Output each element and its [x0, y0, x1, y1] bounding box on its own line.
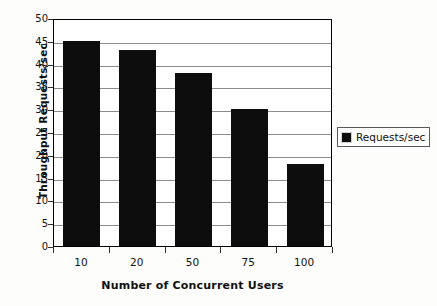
y-tick-label: 25	[8, 128, 48, 138]
y-tick-label: 5	[8, 219, 48, 229]
bar	[231, 109, 268, 246]
x-axis-title: Number of Concurrent Users	[53, 279, 332, 292]
y-tick-label: 50	[8, 14, 48, 24]
y-tick-label: 20	[8, 151, 48, 161]
x-tick-mark	[220, 247, 221, 253]
x-tick-label: 100	[274, 256, 334, 268]
x-tick-mark	[332, 247, 333, 253]
x-tick-mark	[109, 247, 110, 253]
legend-item-label: Requests/sec	[356, 132, 425, 143]
legend: Requests/sec	[337, 127, 430, 147]
x-tick-label: 20	[107, 256, 167, 268]
x-tick-mark	[53, 247, 54, 253]
plot-area	[53, 19, 332, 247]
y-tick-label: 10	[8, 196, 48, 206]
bar	[175, 73, 212, 246]
x-tick-mark	[165, 247, 166, 253]
x-tick-label: 75	[218, 256, 278, 268]
y-tick-label: 15	[8, 174, 48, 184]
y-tick-label: 30	[8, 105, 48, 115]
x-tick-label: 50	[163, 256, 223, 268]
bar-chart: Throughput Requests/sec 5045403530252015…	[0, 0, 437, 306]
bar	[63, 41, 100, 246]
y-tick-label: 0	[8, 242, 48, 252]
filled-square-icon	[341, 132, 352, 143]
y-tick-label: 45	[8, 37, 48, 47]
x-tick-label: 10	[51, 256, 111, 268]
bar	[119, 50, 156, 246]
x-tick-mark	[276, 247, 277, 253]
bar	[287, 164, 324, 246]
y-tick-label: 35	[8, 82, 48, 92]
y-tick-label: 40	[8, 60, 48, 70]
